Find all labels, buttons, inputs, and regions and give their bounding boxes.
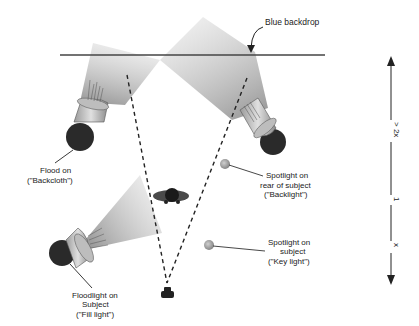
lighting-diagram: Blue backdrop Flood on ("Backcloth") (0, 0, 419, 326)
fill-light-label-3: ("Fill light") (76, 310, 114, 319)
fill-light-label-2: Subject (82, 300, 109, 309)
scale-bottom-label: x (392, 243, 401, 247)
arrow-up-icon (387, 56, 395, 66)
backdrop-arrow (251, 27, 263, 48)
key-light-label-3: ("Key light") (268, 257, 310, 266)
flood-backcloth-label-1: Flood on (40, 166, 71, 175)
key-light-label-2: subject (280, 247, 306, 256)
scale-middle-label: 1 (392, 197, 401, 202)
flood-backcloth-label-2: ("Backcloth") (27, 176, 73, 185)
backlight-label-1: Spotlight on (266, 171, 308, 180)
fill-light-label-1: Floodlight on (72, 291, 118, 300)
key-light-label-1: Spotlight on (268, 238, 310, 247)
camera (161, 287, 174, 298)
backdrop-label: Blue backdrop (265, 17, 320, 27)
backlight-spot (220, 159, 263, 176)
subject (153, 188, 189, 204)
sightline-right (167, 78, 247, 283)
sightline-left (127, 75, 167, 283)
distance-scale: > 2x 1 x (387, 56, 401, 285)
scale-top-label: > 2x (392, 122, 401, 137)
arrow-down-icon (387, 275, 395, 285)
key-light-spot (204, 240, 265, 251)
backlight-label-2: rear of subject (260, 181, 311, 190)
flood-lamp-backcloth-right (240, 98, 286, 155)
backlight-label-3: ("Backlight") (264, 190, 308, 199)
